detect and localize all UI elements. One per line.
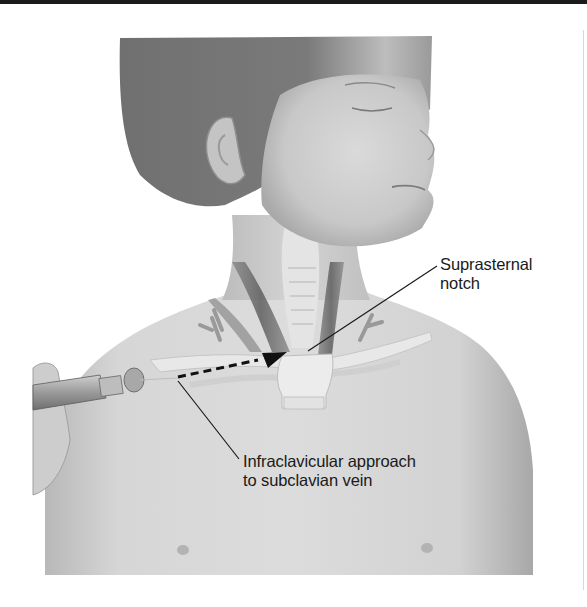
label-suprasternal-line1: Suprasternal — [440, 255, 532, 274]
face — [261, 75, 434, 247]
anatomical-illustration — [0, 0, 587, 607]
label-suprasternal-line2: notch — [440, 274, 532, 293]
label-infraclavicular-line1: Infraclavicular approach — [243, 452, 416, 471]
label-suprasternal-notch: Suprasternal notch — [440, 255, 532, 293]
label-infraclavicular-approach: Infraclavicular approach to subclavian v… — [243, 452, 416, 490]
label-infraclavicular-line2: to subclavian vein — [243, 471, 416, 490]
